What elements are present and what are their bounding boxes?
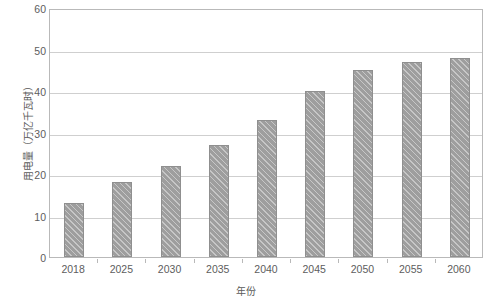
x-axis-minor-tick (387, 259, 388, 263)
x-axis-tick-label: 2060 (431, 264, 487, 275)
gridline (50, 52, 482, 53)
y-axis-tick-label: 30 (12, 129, 46, 140)
plot-area (49, 9, 483, 258)
y-axis-tick-label: 10 (12, 212, 46, 223)
bar (353, 70, 373, 257)
x-axis-minor-tick (145, 259, 146, 263)
bar-chart: 用电量（万亿千瓦时） 0102030405060 201820252030203… (0, 0, 492, 303)
bar (450, 58, 470, 257)
bar (161, 166, 181, 257)
y-axis-tick-label: 20 (12, 170, 46, 181)
bar (64, 203, 84, 257)
x-axis-minor-tick (338, 259, 339, 263)
y-axis-tick-label: 0 (12, 253, 46, 264)
x-axis-minor-tick (242, 259, 243, 263)
bar (209, 145, 229, 257)
y-axis-tick-label: 60 (12, 4, 46, 15)
x-axis-minor-tick (290, 259, 291, 263)
bar (402, 62, 422, 257)
bar (257, 120, 277, 257)
y-axis-tick-label: 40 (12, 87, 46, 98)
x-axis-minor-tick (194, 259, 195, 263)
x-axis-minor-tick (97, 259, 98, 263)
x-axis-minor-tick (435, 259, 436, 263)
y-axis-tick-label: 50 (12, 46, 46, 57)
x-axis-title: 年份 (0, 283, 492, 298)
bar (112, 182, 132, 257)
bar (305, 91, 325, 257)
